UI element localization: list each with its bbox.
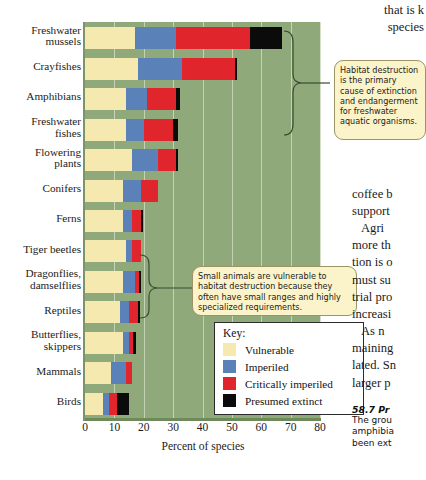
legend-title: Key: bbox=[223, 327, 357, 339]
y-axis-label: Crayfishes bbox=[1, 61, 81, 73]
bar-segment-extinct bbox=[176, 149, 178, 171]
bar-segment-vulnerable bbox=[85, 210, 123, 232]
bar-row bbox=[85, 210, 143, 232]
bar-segment-vulnerable bbox=[85, 332, 123, 354]
x-axis-tick-label: 20 bbox=[129, 421, 159, 433]
bar-segment-imperiled bbox=[123, 180, 141, 202]
body-line: maining bbox=[352, 340, 424, 357]
caption-line: The grou bbox=[352, 415, 424, 426]
bar-segment-extinct bbox=[176, 88, 180, 110]
y-axis-label: Ferns bbox=[1, 213, 81, 225]
brace-freshwater bbox=[282, 28, 332, 138]
gridline-40 bbox=[203, 22, 204, 418]
legend: Key: VulnerableImperiledCritically imper… bbox=[214, 322, 364, 415]
bar-segment-extinct bbox=[141, 210, 143, 232]
x-axis-tick-label: 0 bbox=[70, 421, 100, 433]
y-axis-label-line: Crayfishes bbox=[1, 61, 81, 73]
bar-row bbox=[85, 332, 136, 354]
legend-label: Critically imperiled bbox=[245, 378, 333, 390]
legend-label: Presumed extinct bbox=[245, 395, 322, 407]
bar-row bbox=[85, 119, 178, 141]
bar-segment-critical bbox=[158, 149, 176, 171]
bar-segment-extinct bbox=[250, 27, 282, 49]
y-axis-label-line: mussels bbox=[1, 36, 81, 48]
x-axis-tick-label: 70 bbox=[276, 421, 306, 433]
body-line: increasi bbox=[352, 306, 424, 323]
bar-segment-critical bbox=[109, 393, 118, 415]
bar-segment-vulnerable bbox=[85, 119, 126, 141]
bar-row bbox=[85, 58, 237, 80]
bar-segment-critical bbox=[126, 362, 132, 384]
bar-segment-imperiled bbox=[120, 301, 129, 323]
body-line: that is k bbox=[352, 2, 424, 19]
legend-label: Vulnerable bbox=[245, 344, 294, 356]
body-paragraph: As nmaininglated. Snlarger p bbox=[352, 323, 424, 392]
body-line: support bbox=[352, 203, 424, 220]
body-line: coffee b bbox=[352, 186, 424, 203]
y-axis-label: Butterflies,skippers bbox=[1, 329, 81, 352]
legend-label: Imperiled bbox=[245, 361, 289, 373]
bar-segment-imperiled bbox=[126, 88, 147, 110]
bar-segment-imperiled bbox=[132, 149, 158, 171]
bar-segment-critical bbox=[141, 180, 159, 202]
bar-segment-vulnerable bbox=[85, 240, 126, 262]
x-axis-title: Percent of species bbox=[85, 440, 321, 452]
legend-swatch bbox=[223, 343, 236, 356]
y-axis-label: Amphibians bbox=[1, 91, 81, 103]
caption-number: 58.7 Pr bbox=[352, 404, 424, 415]
y-axis-label-line: Conifers bbox=[1, 183, 81, 195]
y-axis-label: Freshwaterfishes bbox=[1, 116, 81, 139]
bar-segment-imperiled bbox=[123, 210, 132, 232]
bar-row bbox=[85, 180, 158, 202]
figure-caption: 58.7 Pr The grouamphibiabeen ext bbox=[352, 404, 424, 449]
bar-segment-vulnerable bbox=[85, 58, 138, 80]
y-axis-label: Mammals bbox=[1, 366, 81, 378]
body-line: As n bbox=[352, 323, 424, 340]
caption-lines: The grouamphibiabeen ext bbox=[352, 415, 424, 449]
bar-chart-figure: FreshwatermusselsCrayfishesAmphibiansFre… bbox=[0, 0, 330, 480]
x-axis-tick-label: 30 bbox=[158, 421, 188, 433]
callout-small-animals: Small animals are vulnerable to habitat … bbox=[192, 266, 357, 316]
x-axis-tick-label: 50 bbox=[217, 421, 247, 433]
bar-row bbox=[85, 240, 141, 262]
caption-line: amphibia bbox=[352, 426, 424, 437]
bar-row bbox=[85, 362, 132, 384]
bar-segment-imperiled bbox=[126, 119, 144, 141]
body-line: lated. Sn bbox=[352, 357, 424, 374]
bar-segment-extinct bbox=[173, 119, 177, 141]
x-axis-tick-label: 40 bbox=[188, 421, 218, 433]
bar-row bbox=[85, 301, 140, 323]
legend-swatch bbox=[223, 377, 236, 390]
body-line: must su bbox=[352, 272, 424, 289]
bar-segment-extinct bbox=[117, 393, 129, 415]
y-axis-labels: FreshwatermusselsCrayfishesAmphibiansFre… bbox=[0, 0, 81, 480]
bar-row bbox=[85, 271, 141, 293]
body-paragraph: coffee bsupport bbox=[352, 186, 424, 220]
bar-segment-extinct bbox=[235, 58, 237, 80]
bar-segment-critical bbox=[129, 301, 138, 323]
brace-small-animals bbox=[138, 252, 198, 320]
bar-segment-vulnerable bbox=[85, 362, 111, 384]
body-line: trial pro bbox=[352, 289, 424, 306]
bar-segment-critical bbox=[176, 27, 249, 49]
bar-segment-critical bbox=[132, 210, 141, 232]
legend-swatch bbox=[223, 360, 236, 373]
body-line: tion is o bbox=[352, 254, 424, 271]
x-axis-tick-label: 80 bbox=[305, 421, 335, 433]
bar-row bbox=[85, 149, 178, 171]
y-axis-label: Conifers bbox=[1, 183, 81, 195]
bar-row bbox=[85, 393, 129, 415]
y-axis-label-line: Birds bbox=[1, 396, 81, 408]
y-axis-label-line: Ferns bbox=[1, 213, 81, 225]
y-axis-label-line: Tiger beetles bbox=[1, 244, 81, 256]
y-axis-label-line: damselflies bbox=[1, 280, 81, 292]
body-line: larger p bbox=[352, 375, 424, 392]
legend-swatch bbox=[223, 394, 236, 407]
y-axis-label: Birds bbox=[1, 396, 81, 408]
body-paragraph: Agrimore thtion is omust sutrial proincr… bbox=[352, 220, 424, 323]
bar-segment-vulnerable bbox=[85, 27, 135, 49]
legend-item: Vulnerable bbox=[223, 341, 357, 358]
bar-segment-vulnerable bbox=[85, 301, 120, 323]
y-axis-label: Tiger beetles bbox=[1, 244, 81, 256]
y-axis-label-line: fishes bbox=[1, 128, 81, 140]
